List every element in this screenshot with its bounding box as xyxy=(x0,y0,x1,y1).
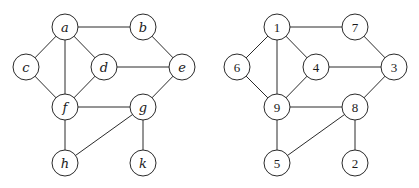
node-3: 3 xyxy=(381,54,407,80)
graph-numbers: 176439852 xyxy=(224,14,407,176)
node-label: 6 xyxy=(234,60,241,75)
node-e: e xyxy=(169,54,195,80)
edge-g-h xyxy=(65,107,143,163)
node-label: g xyxy=(139,100,147,115)
edge-8-5 xyxy=(277,107,355,163)
node-label: e xyxy=(178,60,186,75)
node-label: 5 xyxy=(274,156,281,171)
node-label: a xyxy=(61,20,69,35)
node-d: d xyxy=(91,54,117,80)
node-label: k xyxy=(139,156,147,171)
node-label: 4 xyxy=(313,60,320,75)
node-4: 4 xyxy=(303,54,329,80)
node-9: 9 xyxy=(264,94,290,120)
node-a: a xyxy=(52,14,78,40)
node-2: 2 xyxy=(342,150,368,176)
node-label: h xyxy=(61,156,69,171)
node-label: d xyxy=(100,60,108,75)
node-5: 5 xyxy=(264,150,290,176)
node-6: 6 xyxy=(224,54,250,80)
node-1: 1 xyxy=(264,14,290,40)
node-label: b xyxy=(139,20,147,35)
graph-numbers-nodes: 176439852 xyxy=(224,14,407,176)
graph-letters: abcdefghk xyxy=(13,14,195,176)
node-g: g xyxy=(130,94,156,120)
node-7: 7 xyxy=(342,14,368,40)
graph-diagram-canvas: abcdefghk 176439852 xyxy=(0,0,419,188)
node-f: f xyxy=(52,94,78,120)
graph-numbers-edges xyxy=(237,27,394,163)
node-c: c xyxy=(13,54,39,80)
node-h: h xyxy=(52,150,78,176)
node-label: 9 xyxy=(274,100,281,115)
node-label: 3 xyxy=(391,60,398,75)
node-b: b xyxy=(130,14,156,40)
graph-letters-edges xyxy=(26,27,182,163)
node-8: 8 xyxy=(342,94,368,120)
graph-letters-nodes: abcdefghk xyxy=(13,14,195,176)
node-label: 2 xyxy=(352,156,359,171)
node-k: k xyxy=(130,150,156,176)
node-label: c xyxy=(22,60,30,75)
node-label: 8 xyxy=(352,100,359,115)
node-label: 7 xyxy=(352,20,359,35)
node-label: 1 xyxy=(274,20,281,35)
